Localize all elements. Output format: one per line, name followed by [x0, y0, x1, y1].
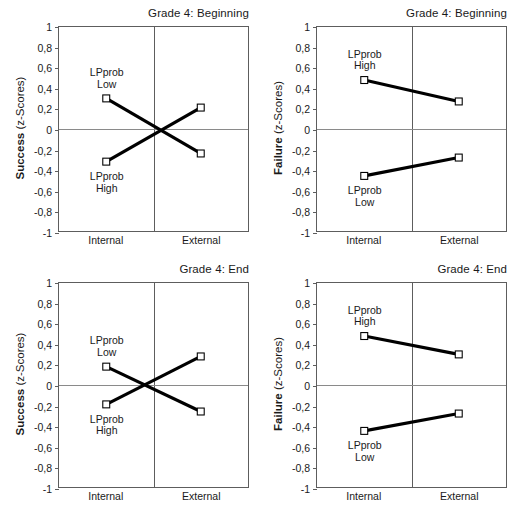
data-point-marker [361, 427, 368, 434]
y-axis-tick-label: 1 [304, 277, 317, 289]
y-axis-tick-label: 0 [304, 380, 317, 392]
y-axis-tick-label: 0,2 [37, 103, 59, 115]
series-line [106, 367, 201, 412]
y-axis-title-measure: Failure [272, 137, 284, 175]
x-axis-tick-label: External [154, 234, 250, 246]
y-axis-title-units: (z-Scores) [272, 81, 284, 137]
x-axis-labels: InternalExternal [316, 490, 507, 502]
series-line [106, 356, 201, 404]
y-axis-tick-label: 1 [304, 21, 317, 33]
series-line [106, 108, 201, 162]
y-axis-tick-label: -0,4 [34, 421, 59, 433]
series-line [364, 158, 459, 176]
panel-title: Grade 4: End [437, 263, 507, 275]
y-axis-tick-label: -0,6 [34, 442, 59, 454]
panel-grade4-beginning-success: Grade 4: BeginningSuccess (z-Scores)10,8… [0, 0, 258, 256]
y-axis-title-measure: Success [14, 133, 26, 180]
y-axis-tick-label: -0,8 [34, 462, 59, 474]
panel-title: Grade 4: Beginning [148, 7, 249, 19]
y-axis-title: Success (z-Scores) [15, 284, 27, 484]
y-axis-tick-label: -0,2 [34, 401, 59, 413]
y-axis-tick-label: 0,8 [295, 298, 317, 310]
y-axis-tick-label: -0,4 [34, 165, 59, 177]
y-axis-tick-label: 1 [46, 277, 59, 289]
panel-title: Grade 4: Beginning [406, 7, 507, 19]
data-point-marker [455, 410, 462, 417]
y-axis-tick-label: 0,6 [295, 62, 317, 74]
y-axis-tick-label: 0,4 [37, 83, 59, 95]
y-axis-tick-label: 0 [46, 124, 59, 136]
y-axis-title: Success (z-Scores) [15, 28, 27, 228]
data-point-marker [103, 363, 110, 370]
y-axis-tick-label: 0,4 [295, 83, 317, 95]
y-axis-tick-label: -0,6 [34, 186, 59, 198]
y-axis-tick-label: 0,6 [295, 318, 317, 330]
y-axis-tick-label: 0 [46, 380, 59, 392]
plot-area: 10,80,60,40,20-0,2-0,4-0,6-0,8-1LPprobLo… [58, 282, 249, 488]
data-point-marker [455, 154, 462, 161]
y-axis-tick-label: 0,2 [295, 359, 317, 371]
y-axis-tick-label: 0,2 [295, 103, 317, 115]
series-layer [59, 27, 248, 231]
y-axis-tick-label: 0,8 [37, 42, 59, 54]
x-axis-tick-label: Internal [316, 490, 412, 502]
x-axis-tick-label: Internal [58, 490, 154, 502]
y-axis-title: Failure (z-Scores) [273, 28, 285, 228]
data-point-marker [103, 95, 110, 102]
y-axis-tick-label: -0,4 [292, 421, 317, 433]
y-axis-title-units: (z-Scores) [272, 337, 284, 393]
series-line [364, 414, 459, 431]
x-axis-tick-label: External [412, 234, 508, 246]
y-axis-tick-label: -0,8 [292, 462, 317, 474]
series-layer [59, 283, 248, 487]
panel-title: Grade 4: End [179, 263, 249, 275]
y-axis-tick-label: -0,2 [34, 145, 59, 157]
data-point-marker [361, 333, 368, 340]
y-axis-tick-label: 0,4 [295, 339, 317, 351]
y-axis-title-measure: Success [14, 389, 26, 436]
y-axis-tick-label: -1 [43, 227, 59, 239]
y-axis-tick-label: -0,8 [34, 206, 59, 218]
y-axis-tick-label: -1 [301, 227, 317, 239]
x-axis-tick-label: External [412, 490, 508, 502]
panel-grade4-beginning-failure: Grade 4: BeginningFailure (z-Scores)10,8… [258, 0, 516, 256]
series-layer [317, 27, 506, 231]
y-axis-tick-label: 0,4 [37, 339, 59, 351]
y-axis-tick-label: -1 [301, 483, 317, 495]
data-point-marker [455, 98, 462, 105]
y-axis-title: Failure (z-Scores) [273, 284, 285, 484]
figure-four-panel-interaction-plots: Grade 4: BeginningSuccess (z-Scores)10,8… [0, 0, 516, 513]
data-point-marker [103, 158, 110, 165]
data-point-marker [455, 351, 462, 358]
data-point-marker [197, 150, 204, 157]
y-axis-tick-label: -1 [43, 483, 59, 495]
y-axis-title-measure: Failure [272, 393, 284, 431]
series-layer [317, 283, 506, 487]
data-point-marker [103, 401, 110, 408]
y-axis-tick-label: 0,6 [37, 318, 59, 330]
series-line [364, 336, 459, 354]
y-axis-tick-label: 0,8 [37, 298, 59, 310]
x-axis-labels: InternalExternal [58, 234, 249, 246]
y-axis-title-units: (z-Scores) [14, 333, 26, 389]
series-line [364, 80, 459, 101]
data-point-marker [361, 77, 368, 84]
y-axis-tick-label: -0,2 [292, 145, 317, 157]
y-axis-tick-label: -0,6 [292, 186, 317, 198]
y-axis-tick-label: 1 [46, 21, 59, 33]
y-axis-tick-label: -0,2 [292, 401, 317, 413]
data-point-marker [197, 408, 204, 415]
panel-grade4-end-success: Grade 4: EndSuccess (z-Scores)10,80,60,4… [0, 256, 258, 512]
data-point-marker [361, 172, 368, 179]
series-line [106, 98, 201, 153]
data-point-marker [197, 104, 204, 111]
y-axis-tick-label: 0 [304, 124, 317, 136]
panel-grade4-end-failure: Grade 4: EndFailure (z-Scores)10,80,60,4… [258, 256, 516, 512]
x-axis-tick-label: Internal [58, 234, 154, 246]
y-axis-tick-label: -0,4 [292, 165, 317, 177]
plot-area: 10,80,60,40,20-0,2-0,4-0,6-0,8-1LPprobHi… [316, 282, 507, 488]
y-axis-tick-label: 0,2 [37, 359, 59, 371]
plot-area: 10,80,60,40,20-0,2-0,4-0,6-0,8-1LPprobLo… [58, 26, 249, 232]
y-axis-title-units: (z-Scores) [14, 77, 26, 133]
y-axis-tick-label: -0,6 [292, 442, 317, 454]
